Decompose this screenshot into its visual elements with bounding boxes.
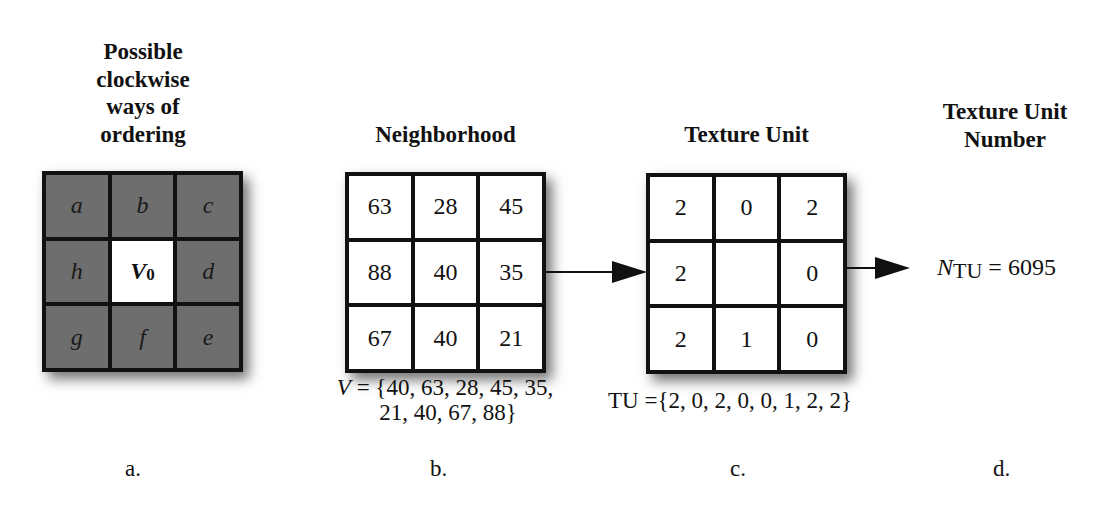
ordering-grid: a b c h V0 d g f e (42, 171, 243, 372)
neighborhood-cell: 21 (480, 307, 542, 369)
ordering-title-line-2: clockwise (43, 66, 243, 94)
formula-values-1: = {40, 63, 28, 45, 35, (351, 375, 553, 400)
ordering-cell-center: V0 (112, 241, 174, 303)
ordering-title-line-3: ways of (43, 93, 243, 121)
neighborhood-grid: 63 28 45 88 40 35 67 40 21 (345, 172, 546, 373)
texture-unit-grid: 2 0 2 2 0 2 1 0 (646, 173, 847, 374)
texture-unit-cell: 0 (781, 243, 843, 305)
neighborhood-formula-line-2: 21, 40, 67, 88} (280, 400, 610, 425)
neighborhood-title: Neighborhood (345, 121, 546, 149)
texture-unit-number-value: NTU = 6095 (937, 254, 1056, 281)
ntu-symbol: N (937, 254, 953, 280)
ordering-title-line-1: Possible (43, 38, 243, 66)
texture-unit-cell: 1 (716, 308, 778, 370)
caption-c: c. (730, 456, 746, 482)
texture-unit-number-title-line-2: Number (915, 126, 1095, 154)
center-symbol: V (130, 258, 146, 285)
ntu-value: = 6095 (982, 254, 1056, 280)
ordering-cell-d: d (177, 241, 239, 303)
ordering-cell-c: c (177, 175, 239, 237)
neighborhood-cell: 40 (415, 307, 477, 369)
caption-d: d. (993, 456, 1010, 482)
neighborhood-cell: 88 (349, 242, 411, 304)
ordering-title: Possible clockwise ways of ordering (43, 38, 243, 148)
texture-unit-formula: TU ={2, 0, 2, 0, 0, 1, 2, 2} (608, 388, 928, 413)
texture-unit-number-title: Texture Unit Number (915, 98, 1095, 153)
texture-unit-cell: 2 (781, 177, 843, 239)
neighborhood-formula: V = {40, 63, 28, 45, 35, 21, 40, 67, 88} (280, 375, 610, 425)
texture-unit-number-title-line-1: Texture Unit (915, 98, 1095, 126)
texture-unit-title: Texture Unit (646, 121, 847, 149)
neighborhood-cell: 35 (480, 242, 542, 304)
right-arrow-icon (847, 254, 913, 282)
ntu-subscript: TU (953, 258, 982, 283)
center-subscript: 0 (146, 265, 155, 285)
texture-unit-cell: 2 (650, 243, 712, 305)
ordering-title-line-4: ordering (43, 121, 243, 149)
texture-unit-cell-center (716, 243, 778, 305)
ordering-cell-b: b (112, 175, 174, 237)
ordering-cell-a: a (46, 175, 108, 237)
ordering-cell-f: f (112, 306, 174, 368)
texture-unit-cell: 0 (716, 177, 778, 239)
neighborhood-cell: 45 (480, 176, 542, 238)
texture-unit-cell: 2 (650, 308, 712, 370)
caption-b: b. (430, 456, 447, 482)
neighborhood-cell-center: 40 (415, 242, 477, 304)
caption-a: a. (125, 456, 141, 482)
neighborhood-formula-line-1: V = {40, 63, 28, 45, 35, (280, 375, 610, 400)
right-arrow-icon (546, 258, 650, 286)
ordering-cell-e: e (177, 306, 239, 368)
texture-unit-cell: 0 (781, 308, 843, 370)
neighborhood-cell: 28 (415, 176, 477, 238)
ordering-cell-h: h (46, 241, 108, 303)
neighborhood-cell: 67 (349, 307, 411, 369)
formula-variable-v: V (337, 375, 351, 400)
texture-unit-cell: 2 (650, 177, 712, 239)
neighborhood-cell: 63 (349, 176, 411, 238)
ordering-cell-g: g (46, 306, 108, 368)
